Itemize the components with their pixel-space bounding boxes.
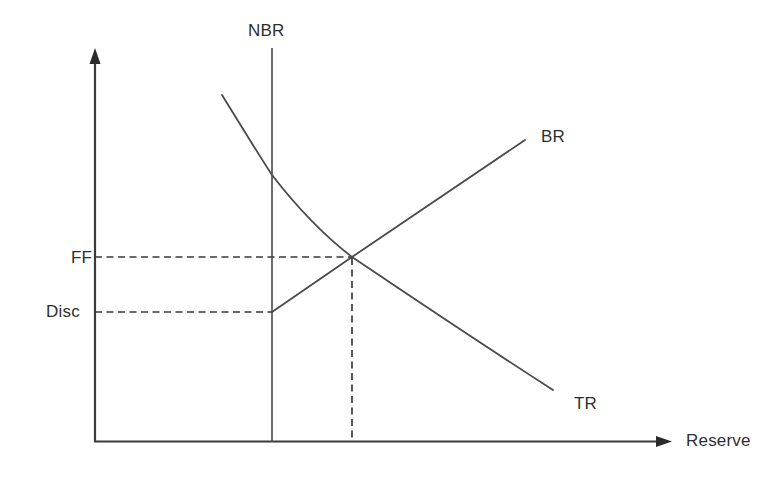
nbr-curve-label: NBR <box>248 22 285 39</box>
x-axis <box>94 436 672 447</box>
x-axis-arrowhead-icon <box>656 436 672 447</box>
y-axis <box>90 48 101 442</box>
ff-axis-label: FF <box>71 249 92 266</box>
br-curve-label: BR <box>541 128 565 145</box>
br-supply-curve <box>272 140 525 312</box>
reserve-market-figure: NBR BR TR FF Disc Reserve <box>0 0 784 482</box>
x-axis-title: Reserve <box>686 432 751 449</box>
diagram-canvas <box>0 0 784 482</box>
tr-curve-label: TR <box>574 395 597 412</box>
disc-axis-label: Disc <box>46 303 80 320</box>
y-axis-arrowhead-icon <box>90 48 101 64</box>
